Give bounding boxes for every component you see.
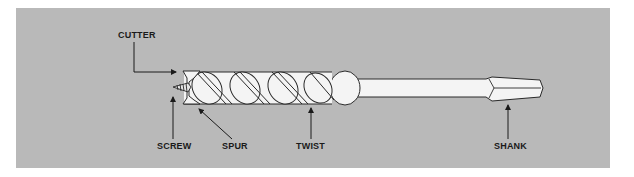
twist-body	[184, 66, 338, 110]
label-spur: SPUR	[222, 141, 248, 151]
shank-rod	[352, 77, 543, 101]
label-shank: SHANK	[494, 141, 527, 151]
label-cutter: CUTTER	[118, 30, 156, 40]
label-twist: TWIST	[296, 141, 325, 151]
collar	[330, 71, 360, 105]
cutter-leader	[134, 42, 176, 72]
spur-leader	[199, 109, 232, 139]
label-screw: SCREW	[157, 141, 192, 151]
lead-screw	[173, 83, 191, 92]
